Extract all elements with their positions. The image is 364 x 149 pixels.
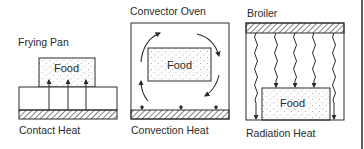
- panel-title-frying-pan: Frying Pan: [18, 36, 69, 48]
- heat-source-hatched: [19, 110, 117, 119]
- panel-title-convector-oven: Convector Oven: [130, 5, 206, 17]
- heat-transfer-diagram: Frying Pan Food Contact Heat Convector O…: [0, 0, 364, 149]
- panel-frying-pan: Frying Pan Food Contact Heat: [18, 36, 117, 136]
- panel-convector-oven: Convector Oven Food Convection Heat: [130, 5, 229, 136]
- food-block: Food: [148, 48, 211, 81]
- heat-source-hatched: [246, 23, 344, 33]
- panel-broiler: Broiler Food Radiation Heat: [246, 7, 344, 139]
- food-block: Food: [262, 88, 330, 120]
- caption-radiation-heat: Radiation Heat: [246, 127, 316, 139]
- food-label: Food: [54, 62, 79, 74]
- food-block: Food: [39, 58, 95, 87]
- food-label: Food: [280, 97, 305, 109]
- caption-contact-heat: Contact Heat: [19, 124, 80, 136]
- caption-convection-heat: Convection Heat: [131, 124, 209, 136]
- panel-title-broiler: Broiler: [247, 7, 278, 19]
- food-label: Food: [167, 59, 192, 71]
- heat-source-hatched: [131, 110, 229, 119]
